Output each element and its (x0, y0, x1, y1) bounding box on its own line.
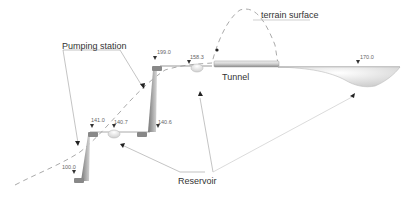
label-pumping-station: Pumping station (62, 41, 127, 51)
pump-100 (74, 178, 84, 183)
leader-pumping-2 (63, 50, 78, 143)
elevation-1406: 140.6 (158, 119, 172, 125)
leader-reservoir-1 (122, 145, 205, 172)
shaft-2 (148, 70, 157, 132)
reservoir-158 (191, 64, 203, 72)
leader-reservoir-2 (200, 98, 213, 172)
label-reservoir: Reservoir (178, 176, 217, 186)
leader-reservoir-3 (213, 97, 352, 172)
tunnel-pipe (214, 61, 279, 67)
reservoir-basin (278, 67, 400, 87)
elevation-1407: 140.7 (114, 119, 128, 125)
elevation-170: 170.0 (360, 54, 374, 60)
label-terrain-surface: terrain surface (261, 10, 319, 20)
elevation-199: 199.0 (157, 49, 171, 55)
elevation-141: 141.0 (91, 117, 105, 123)
reservoir-1407 (108, 130, 120, 138)
leader-pumping-1 (63, 50, 142, 86)
label-tunnel: Tunnel (222, 72, 249, 82)
pump-1406 (137, 132, 147, 137)
pump-141 (88, 132, 98, 137)
pump-199 (152, 66, 162, 71)
shaft-1 (81, 135, 90, 181)
tunnel-marker-dot (215, 48, 218, 51)
elevation-158: 158.3 (190, 54, 204, 60)
elevation-100: 100.0 (62, 164, 76, 170)
water-supply-profile-diagram: Pumping station terrain surface Tunnel R… (0, 0, 414, 199)
